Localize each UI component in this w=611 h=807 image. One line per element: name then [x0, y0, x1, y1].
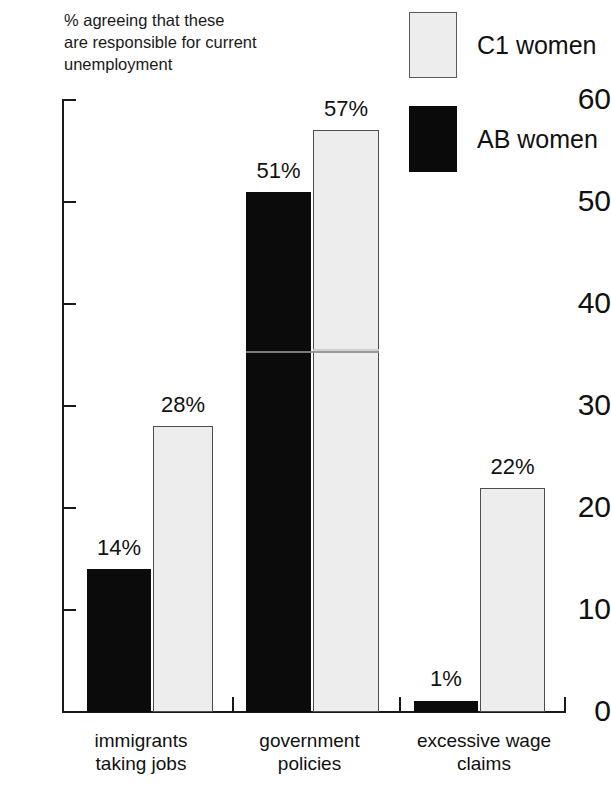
- bar-label-ab-immigrants: 14%: [87, 537, 151, 559]
- y-tick-30: [64, 405, 76, 407]
- x-category-label-government: government policies: [237, 729, 382, 775]
- bar-ab-immigrants[interactable]: [87, 569, 151, 712]
- bar-label-c1-wage-claims: 22%: [480, 456, 545, 478]
- bar-label-c1-government: 57%: [313, 98, 379, 120]
- bar-c1-immigrants[interactable]: [153, 426, 213, 712]
- y-tick-label-40: 40: [553, 288, 611, 318]
- y-tick-label-0: 0: [553, 696, 611, 726]
- y-tick-10: [64, 609, 76, 611]
- bar-c1-government[interactable]: [313, 130, 379, 712]
- bar-label-ab-government: 51%: [246, 160, 311, 182]
- x-tick-separator-2: [399, 697, 401, 711]
- y-tick-label-30: 30: [553, 390, 611, 420]
- x-category-label-immigrants: immigrants taking jobs: [66, 729, 216, 775]
- y-tick-20: [64, 507, 76, 509]
- bar-ab-government[interactable]: [246, 192, 311, 712]
- bar-c1-wage-claims[interactable]: [480, 488, 545, 712]
- y-tick-label-50: 50: [553, 186, 611, 216]
- bar-ab-wage-claims[interactable]: [414, 701, 478, 712]
- scan-artifact-1: [246, 351, 379, 353]
- bar-label-ab-wage-claims: 1%: [414, 668, 478, 690]
- x-tick-separator-1: [232, 697, 234, 711]
- y-tick-40: [64, 303, 76, 305]
- y-tick-label-10: 10: [553, 594, 611, 624]
- bar-label-c1-immigrants: 28%: [153, 394, 213, 416]
- plot-area: 0 10 20 30 40 50 60 14% 28% 51% 57% 1% 2…: [0, 0, 611, 807]
- x-category-label-wage-claims: excessive wage claims: [400, 729, 568, 775]
- y-tick-label-20: 20: [553, 492, 611, 522]
- y-tick-50: [64, 201, 76, 203]
- scan-artifact-2: [313, 349, 379, 351]
- x-tick-end: [564, 697, 566, 711]
- y-tick-0: [64, 711, 76, 713]
- y-tick-60: [64, 99, 76, 101]
- y-tick-label-60: 60: [553, 84, 611, 114]
